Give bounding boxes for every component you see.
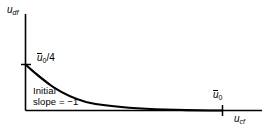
plot-canvas [0,0,269,132]
y-intercept-suffix: /4 [46,52,54,63]
annotation-line-2: slope = −1 [33,96,78,107]
x-tick-var: u [213,89,219,100]
annotation-line-1: Initial [33,85,56,96]
x-tick-label-u0: u0 [213,90,222,101]
y-axis-label-subscript: df [13,9,19,16]
y-intercept-var: u [37,52,43,63]
x-axis-label-subscript: cf [240,118,245,125]
overbar-mark-x [213,90,218,91]
overbar-mark [37,53,42,54]
y-axis-label: udf [7,5,18,16]
x-axis-label: ucf [234,114,245,125]
u-bar-overline-group-x: u [213,90,219,101]
x-tick-subscript: 0 [219,94,223,101]
y-intercept-tick-label: u0/4 [37,53,55,64]
initial-slope-annotation: Initialslope = −1 [33,85,78,107]
u-bar-overline-group: u [37,53,43,64]
annotation-leader-line [28,66,51,84]
figure-container: udf ucf u0/4 u0 Initialslope = −1 [0,0,269,132]
